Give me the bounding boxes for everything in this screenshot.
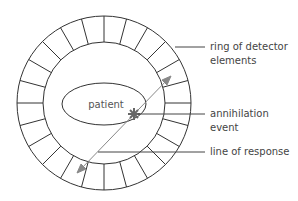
detector-segment-divider (81, 19, 88, 44)
label-annihilation-event: annihilation event (210, 107, 269, 135)
patient-label: patient (88, 99, 124, 110)
detector-segment-divider (157, 60, 180, 73)
detector-segment-divider (42, 41, 60, 59)
label-line: event (210, 121, 269, 135)
detector-segment-divider (61, 156, 74, 179)
detector-segment-divider (20, 119, 45, 126)
detector-segment-divider (147, 41, 165, 59)
detector-segment-divider (135, 156, 148, 179)
label-line: annihilation (210, 107, 269, 121)
detector-segment-divider (147, 146, 165, 164)
detector-segment-divider (163, 119, 188, 126)
label-line: elements (210, 54, 288, 68)
label-line-of-response: line of response (210, 145, 289, 159)
detector-segment-divider (20, 80, 45, 87)
detector-segment-divider (29, 60, 52, 73)
detector-segment-divider (120, 19, 127, 44)
detector-segment-divider (120, 162, 127, 187)
label-line: ring of detector (210, 40, 288, 54)
label-ring-of-detector-elements: ring of detector elements (210, 40, 288, 68)
detector-segment-divider (29, 134, 52, 147)
detector-segment-divider (61, 28, 74, 51)
detector-segment-divider (157, 134, 180, 147)
detector-segment-divider (42, 146, 60, 164)
pet-diagram (0, 0, 298, 201)
label-line: line of response (210, 145, 289, 159)
detector-segment-divider (135, 28, 148, 51)
